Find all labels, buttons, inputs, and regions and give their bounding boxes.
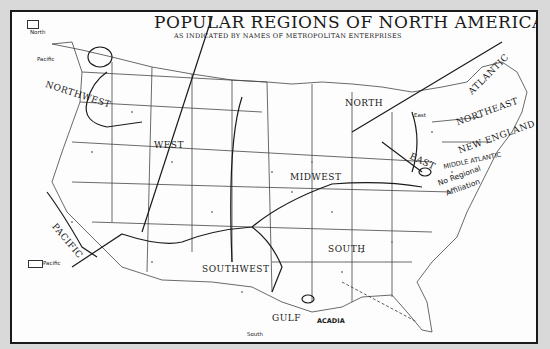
pacific-inset-box	[28, 260, 43, 268]
east-pointer-label: East	[414, 113, 426, 119]
pacific-pointer-label: Pacific	[37, 57, 54, 63]
region-label-midwest: MIDWEST	[290, 173, 341, 182]
region-label-acadia: ACADIA	[317, 318, 345, 325]
south-pointer-label: South	[247, 332, 263, 338]
region-label-gulf: GULF	[272, 314, 301, 323]
region-label-southwest: SOUTHWEST	[202, 265, 269, 274]
north-inset-box	[27, 20, 39, 29]
inset-north-label: North	[30, 30, 45, 36]
map-subtitle: AS INDICATED BY NAMES OF METROPOLITAN EN…	[174, 33, 402, 40]
region-label-south: SOUTH	[328, 245, 365, 254]
region-label-north: NORTH	[345, 99, 383, 108]
map-frame: POPULAR REGIONS OF NORTH AMERICA AS INDI…	[10, 10, 538, 344]
pacific-inset-label: Pacific	[43, 261, 60, 267]
region-label-west: WEST	[154, 141, 184, 150]
map-title: POPULAR REGIONS OF NORTH AMERICA	[154, 14, 538, 31]
